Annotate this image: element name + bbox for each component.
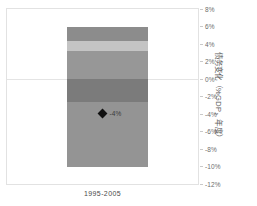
bar-segment-2[interactable]: [67, 41, 147, 51]
tick-mark-icon: [200, 79, 203, 80]
tick-mark-icon: [200, 96, 203, 97]
tick-mark-icon: [200, 9, 203, 10]
tick-mark-icon: [200, 149, 203, 150]
bar-segment-3[interactable]: [67, 51, 147, 79]
tick-mark-icon: [200, 44, 203, 45]
y-axis-title: 债务变化（%GDP，年度）: [212, 8, 228, 185]
tick-mark-icon: [200, 131, 203, 132]
plot-area: -4%: [6, 8, 199, 185]
tick-mark-icon: [200, 166, 203, 167]
tick-mark-icon: [200, 184, 203, 185]
tick-mark-icon: [200, 61, 203, 62]
tick-mark-icon: [200, 26, 203, 27]
data-point-marker[interactable]: -4%: [99, 110, 121, 117]
chart-root: -4% 8%6%4%2%0%-2%-4%-6%-8%-10%-12% 债务变化（…: [0, 0, 257, 206]
stacked-bar-1995-2005[interactable]: [67, 9, 147, 184]
x-axis-category-label: 1995-2005: [6, 190, 199, 197]
marker-value-label: -4%: [109, 110, 121, 117]
tick-mark-icon: [200, 114, 203, 115]
bar-segment-4[interactable]: [67, 79, 147, 102]
diamond-marker-icon: [98, 109, 108, 119]
bar-segment-1[interactable]: [67, 27, 147, 42]
